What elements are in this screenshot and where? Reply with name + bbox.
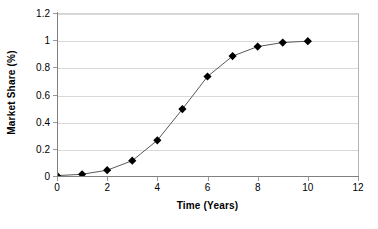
x-axis-tick-mark [107,177,108,181]
x-axis-tick-mark [258,177,259,181]
x-axis-tick-label: 10 [302,182,313,193]
y-axis-tick-mark [53,122,57,123]
gridlines [57,15,358,151]
y-axis-line [57,12,58,177]
x-axis-tick-label: 6 [205,182,211,193]
y-axis-tick-mark [53,40,57,41]
chart-container: Market Share (%) 00.20.40.60.811.2 02468… [0,0,378,229]
y-axis-tick-mark [53,149,57,150]
x-axis-tick-label: 2 [104,182,110,193]
data-point-marker [254,43,262,51]
x-axis-tick-mark [308,177,309,181]
y-axis-tick-mark [53,95,57,96]
y-axis-tick-mark [53,67,57,68]
y-axis-tick-label: 0.8 [36,62,50,73]
y-axis-tick-label: 0.4 [36,116,50,127]
y-axis-tick-label: 0 [44,171,50,182]
x-axis-tick-label: 8 [255,182,261,193]
y-axis-title: Market Share (%) [0,0,22,185]
plot-area [57,13,359,177]
y-axis-tick-label: 0.6 [36,89,50,100]
y-axis-title-text: Market Share (%) [6,50,17,134]
y-axis-tick-labels: 00.20.40.60.811.2 [20,0,54,185]
x-axis-title: Time (Years) [57,200,358,211]
y-axis-tick-label: 0.2 [36,143,50,154]
y-axis-tick-label: 1.2 [36,8,50,19]
x-axis-tick-mark [57,177,58,181]
data-point-marker [103,166,111,174]
x-axis-tick-label: 0 [54,182,60,193]
x-axis-tick-mark [358,177,359,181]
plot-svg [57,14,358,177]
y-axis-tick-label: 1 [44,35,50,46]
y-axis-tick-mark [53,13,57,14]
x-axis-tick-labels: 024681012 [0,182,378,198]
x-axis-tick-mark [208,177,209,181]
x-axis-tick-mark [157,177,158,181]
data-point-marker [279,38,287,46]
x-axis-tick-label: 12 [352,182,363,193]
data-point-marker [304,37,312,45]
x-axis-tick-label: 4 [155,182,161,193]
